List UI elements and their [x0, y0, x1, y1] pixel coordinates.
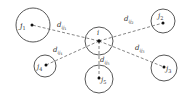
- edge-label-d-ij5: dij5: [100, 56, 110, 66]
- node-label-j3: j3: [164, 65, 171, 74]
- edge-label-d-ij4: dij4: [53, 46, 63, 56]
- edge-label-d-ij3: dij3: [135, 44, 145, 54]
- node-circle-j2: [151, 9, 175, 33]
- node-dot-j4: [45, 64, 48, 67]
- node-label-j4: j4: [35, 63, 42, 72]
- node-label-j2: j2: [156, 12, 163, 21]
- node-label-i: i: [97, 29, 99, 37]
- node-dot-j1: [31, 24, 34, 27]
- edge-i-j2: [99, 23, 163, 41]
- node-dot-j2: [162, 22, 165, 25]
- edge-label-d-ij2: dij2: [124, 15, 134, 25]
- node-label-j5: j5: [99, 76, 106, 85]
- edge-label-d-ij1: dij1: [57, 21, 67, 31]
- node-label-j1: j1: [18, 21, 26, 31]
- node-dot-i: [97, 39, 101, 43]
- distance-diagram: i j1 j2 j3 j4 j5 dij1 dij2 dij3 dij4 dij…: [0, 0, 190, 100]
